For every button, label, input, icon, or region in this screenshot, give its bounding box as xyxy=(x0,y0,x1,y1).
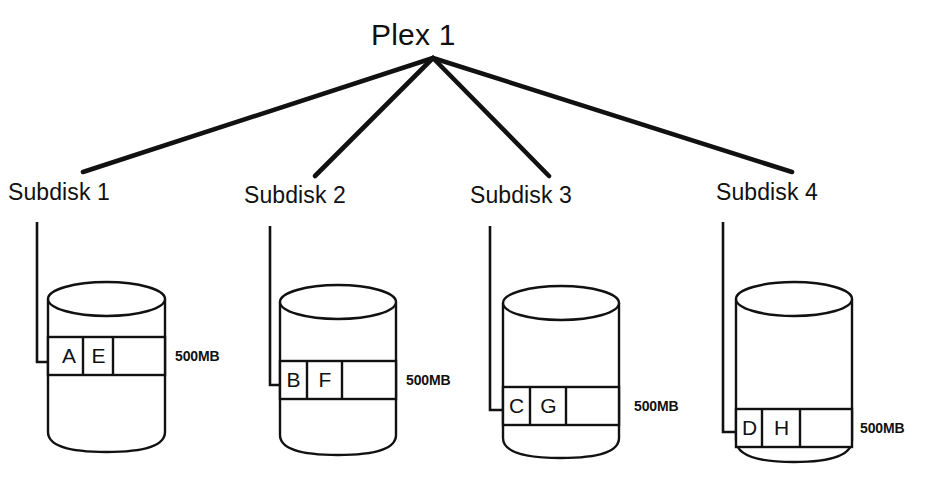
capacity-label-4: 500MB xyxy=(860,420,905,436)
connector-line-subdisk-1 xyxy=(83,58,433,172)
cylinder-top-subdisk-3 xyxy=(503,286,619,320)
subdisk-1-cell-0: A xyxy=(55,345,83,366)
cylinder-body-subdisk-3 xyxy=(503,303,619,458)
subdisk-1-cell-1: E xyxy=(84,345,113,366)
subdisk-2-graphic xyxy=(270,226,396,455)
capacity-label-2: 500MB xyxy=(406,372,451,388)
subdisk-2-cell-1: F xyxy=(308,369,342,390)
plex-subdisk-diagram: Plex 1 Subdisk 1 A E 500MB Subdisk 2 B F… xyxy=(0,0,935,488)
plex-title: Plex 1 xyxy=(371,18,456,52)
subdisk-4-cell-1: H xyxy=(763,417,800,438)
cylinder-top-subdisk-1 xyxy=(48,282,165,316)
subdisk-label-4: Subdisk 4 xyxy=(716,179,818,206)
capacity-label-1: 500MB xyxy=(175,348,220,364)
subdisk-3-cell-1: G xyxy=(531,395,566,416)
plex-connector-lines xyxy=(83,58,792,176)
subdisk-3-cell-0: C xyxy=(503,395,530,416)
subdisk-4-cell-0: D xyxy=(737,417,762,438)
subdisk-label-1: Subdisk 1 xyxy=(8,179,110,206)
subdisk-2-cell-0: B xyxy=(280,369,307,390)
subdisk-1-graphic xyxy=(37,222,165,452)
cylinder-top-subdisk-2 xyxy=(280,285,396,319)
subdisk-3-graphic xyxy=(490,226,619,458)
subdisk-label-2: Subdisk 2 xyxy=(244,182,346,209)
subdisk-label-3: Subdisk 3 xyxy=(470,182,572,209)
capacity-label-3: 500MB xyxy=(634,398,679,414)
cylinder-top-subdisk-4 xyxy=(736,282,852,316)
diagram-vector-layer xyxy=(0,0,935,488)
